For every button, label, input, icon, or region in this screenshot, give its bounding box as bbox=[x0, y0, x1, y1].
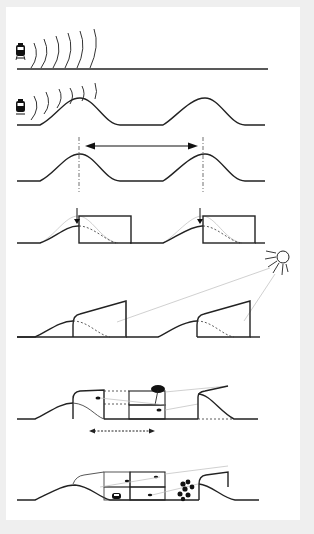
sound-waves bbox=[31, 83, 97, 120]
train-icon bbox=[16, 99, 25, 114]
sun-icon bbox=[265, 251, 289, 275]
sound-waves bbox=[31, 29, 96, 68]
diagram-panel bbox=[6, 7, 300, 520]
dashed-double-arrow bbox=[89, 429, 155, 434]
sun-ray bbox=[244, 274, 275, 321]
panel-1-flat-ground bbox=[16, 29, 268, 69]
double-arrow bbox=[85, 143, 198, 150]
eye-icon bbox=[157, 409, 162, 412]
panel-4-boxes bbox=[17, 208, 265, 243]
panel-5-sun bbox=[17, 251, 289, 337]
panel-7-program bbox=[17, 466, 259, 501]
panel-6-units bbox=[17, 385, 258, 434]
panel-2-mounds bbox=[16, 83, 265, 125]
sun-ray bbox=[117, 268, 270, 322]
panel-3-spacing bbox=[17, 137, 265, 192]
building-box bbox=[79, 216, 131, 243]
mound-profile bbox=[17, 98, 265, 125]
diagram-canvas bbox=[6, 7, 300, 520]
train-icon bbox=[16, 43, 25, 60]
eye-icon bbox=[96, 397, 101, 400]
tree-icon bbox=[151, 385, 165, 405]
trees-cluster bbox=[178, 480, 195, 502]
car-icon bbox=[112, 493, 121, 499]
building-box bbox=[203, 216, 255, 243]
mound-profile bbox=[17, 154, 265, 181]
eye-icon bbox=[148, 494, 152, 497]
